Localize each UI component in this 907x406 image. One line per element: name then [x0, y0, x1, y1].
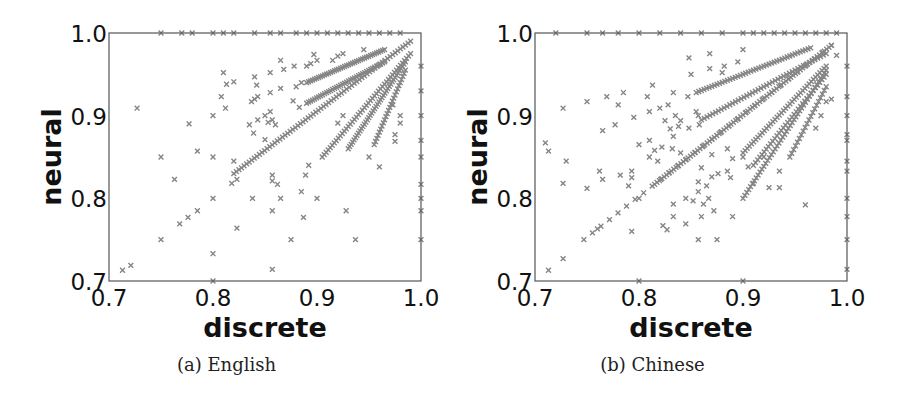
data-point-marker: [777, 185, 782, 190]
data-point-marker: [670, 146, 675, 151]
data-point-marker: [631, 115, 636, 120]
data-point-marker: [661, 223, 666, 228]
data-point-marker: [585, 186, 590, 191]
data-point-marker: [268, 70, 273, 75]
data-point-marker: [195, 149, 200, 154]
data-point-marker: [186, 215, 191, 220]
data-point-marker: [128, 263, 133, 268]
data-point-marker: [235, 177, 240, 182]
data-point-marker: [315, 196, 320, 201]
data-point-marker: [626, 184, 631, 189]
data-point-marker: [687, 126, 692, 131]
data-point-marker: [728, 175, 733, 180]
x-tick-label: 0.8: [195, 285, 232, 311]
data-point-marker: [270, 267, 275, 272]
data-point-marker: [211, 155, 216, 160]
data-point-marker: [722, 64, 727, 69]
data-point-marker: [637, 142, 642, 147]
data-point-marker: [673, 113, 678, 118]
data-point-marker: [268, 109, 273, 114]
data-point-marker: [281, 67, 286, 72]
data-point-marker: [696, 237, 701, 242]
data-point-marker: [655, 159, 660, 164]
data-point-marker: [683, 196, 688, 201]
data-point-marker: [177, 222, 182, 227]
data-point-marker: [629, 229, 634, 234]
y-tick-label: 0.8: [496, 186, 533, 212]
data-point-marker: [393, 132, 398, 137]
data-point-marker: [251, 131, 256, 136]
data-point-marker: [600, 128, 605, 133]
data-point-marker: [341, 51, 346, 56]
data-point-marker: [813, 126, 818, 131]
data-point-marker: [335, 54, 340, 59]
data-point-marker: [135, 106, 140, 111]
data-point-marker: [223, 106, 228, 111]
data-point-marker: [211, 113, 216, 118]
data-point-marker: [398, 113, 403, 118]
data-point-marker: [699, 165, 704, 170]
data-point-marker: [303, 173, 308, 178]
data-point-marker: [834, 53, 839, 58]
data-point-marker: [730, 214, 735, 219]
data-point-marker: [720, 70, 725, 75]
data-point-marker: [229, 181, 234, 186]
data-point-marker: [297, 105, 302, 110]
y-tick-label: 0.9: [70, 104, 107, 130]
data-point-marker: [597, 169, 602, 174]
data-point-marker: [159, 155, 164, 160]
data-point-marker: [187, 122, 192, 127]
data-point-marker: [219, 94, 224, 99]
data-point-marker: [633, 197, 638, 202]
y-tick-label: 0.8: [70, 186, 107, 212]
data-point-marker: [408, 39, 413, 44]
data-point-marker: [315, 58, 320, 63]
data-point-marker: [715, 237, 720, 242]
x-axis-label: discrete: [203, 312, 327, 343]
data-point-marker: [829, 97, 834, 102]
data-point-marker: [268, 90, 273, 95]
data-point-marker: [270, 179, 275, 184]
data-point-marker: [546, 268, 551, 273]
data-point-marker: [353, 237, 358, 242]
data-point-marker: [666, 103, 671, 108]
y-axis-label: neural: [462, 108, 493, 206]
data-point-marker: [691, 198, 696, 203]
data-point-marker: [235, 226, 240, 231]
data-point-marker: [707, 66, 712, 71]
data-point-marker: [607, 217, 612, 222]
data-point-marker: [641, 190, 646, 195]
data-point-marker: [689, 72, 694, 77]
data-point-marker: [735, 60, 740, 65]
scatter-plot-english: 0.70.80.91.00.70.80.91.0discreteneural: [0, 0, 453, 350]
data-point-marker: [590, 231, 595, 236]
y-tick-label: 1.0: [70, 21, 107, 47]
data-point-marker: [665, 227, 670, 232]
panel-chinese: 0.70.80.91.00.70.80.91.0discreteneural (…: [426, 0, 879, 406]
data-point-marker: [777, 169, 782, 174]
data-point-marker: [270, 117, 275, 122]
data-point-marker: [254, 83, 259, 88]
data-point-marker: [621, 90, 626, 95]
data-point-marker: [829, 43, 834, 48]
data-point-marker: [616, 210, 621, 215]
data-point-marker: [250, 196, 255, 201]
data-point-marker: [761, 155, 766, 160]
data-point-marker: [299, 80, 304, 85]
data-point-marker: [767, 185, 772, 190]
data-point-marker: [270, 173, 275, 178]
data-point-marker: [707, 51, 712, 56]
data-point-marker: [701, 202, 706, 207]
data-point-marker: [600, 177, 605, 182]
data-point-marker: [637, 196, 642, 201]
data-point-marker: [678, 118, 683, 123]
data-point-marker: [652, 148, 657, 153]
data-point-marker: [678, 150, 683, 155]
data-point-marker: [711, 208, 716, 213]
panel-english: 0.70.80.91.00.70.80.91.0discreteneural (…: [0, 0, 453, 406]
data-point-marker: [697, 122, 702, 127]
data-point-marker: [824, 99, 829, 104]
data-point-marker: [335, 121, 340, 126]
data-point-marker: [546, 149, 551, 154]
data-point-marker: [685, 94, 690, 99]
